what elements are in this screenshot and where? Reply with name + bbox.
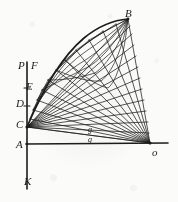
label-c: C bbox=[16, 119, 23, 130]
inner-arc-3 bbox=[37, 19, 128, 100]
node-c bbox=[25, 125, 28, 128]
inner-arc-5 bbox=[48, 19, 128, 80]
node-a bbox=[26, 143, 29, 146]
label-p: P bbox=[18, 60, 25, 71]
label-g-upper: g bbox=[88, 126, 92, 134]
node-o bbox=[148, 141, 151, 144]
net-chord-4 bbox=[42, 60, 65, 90]
inner-arc-family bbox=[30, 19, 128, 119]
label-b: B bbox=[125, 8, 132, 19]
ray-c-6 bbox=[27, 89, 142, 127]
label-k: K bbox=[24, 176, 31, 187]
figure-canvas: P F E D C A K B o g g bbox=[0, 0, 178, 202]
label-e: E bbox=[26, 81, 33, 92]
label-f: F bbox=[31, 60, 38, 71]
label-o: o bbox=[152, 147, 158, 158]
ray-c-13 bbox=[27, 19, 128, 127]
geometric-diagram bbox=[0, 0, 178, 202]
inner-arc-1 bbox=[30, 19, 128, 119]
label-g-lower: g bbox=[88, 136, 92, 144]
net-chord-lines bbox=[30, 19, 128, 119]
horizontal-baseline bbox=[26, 143, 168, 144]
ray-o-7 bbox=[56, 70, 150, 143]
label-a: A bbox=[16, 139, 23, 150]
label-d: D bbox=[16, 98, 24, 109]
